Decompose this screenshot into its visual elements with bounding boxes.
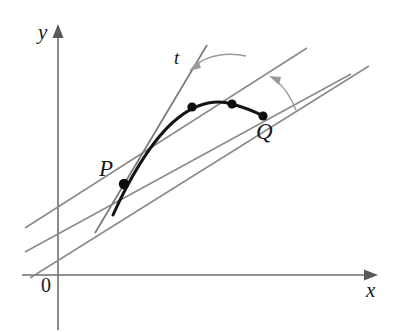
- curve-path: [113, 102, 263, 215]
- secant-lines-group: [25, 48, 369, 278]
- angle-arc-outer-group: [189, 54, 246, 71]
- x-axis: [22, 270, 378, 281]
- secant-line-2: [25, 74, 351, 252]
- origin-label: 0: [41, 275, 51, 295]
- math-figure-diagram: y x 0 P Q t: [0, 0, 399, 332]
- tangent-line-label: t: [174, 48, 179, 67]
- angle-arc-outer: [196, 54, 246, 65]
- point-P-label: P: [99, 157, 113, 180]
- angle-arc-inner-arrowhead: [269, 76, 281, 85]
- tangent-line-t: [95, 45, 207, 233]
- secant-line-3: [30, 66, 369, 278]
- angle-arc-inner-group: [269, 76, 296, 110]
- y-axis: [53, 24, 64, 330]
- point-Q-label: Q: [256, 120, 273, 143]
- point-second-secant-dot: [227, 99, 236, 108]
- figure-canvas: [0, 0, 399, 332]
- point-P-dot: [119, 179, 129, 189]
- x-axis-label: x: [366, 280, 375, 301]
- point-first-secant-dot: [187, 102, 196, 111]
- angle-arc-outer-arrowhead: [189, 60, 201, 71]
- y-axis-label: y: [38, 22, 47, 43]
- y-axis-arrowhead: [53, 24, 64, 38]
